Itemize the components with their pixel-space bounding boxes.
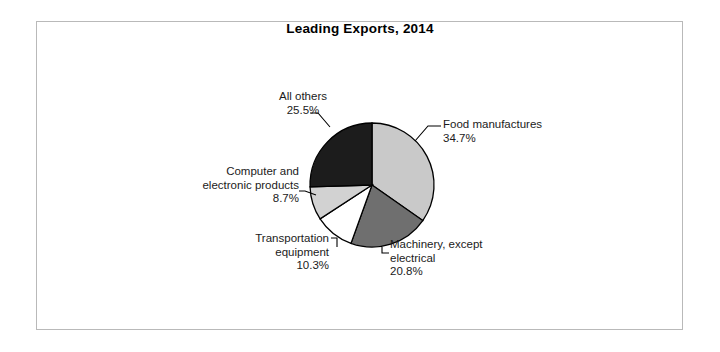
pie-label-transportation-equipment: Transportation equipment 10.3%: [243, 232, 329, 273]
pie-label-transportation-name-line2: equipment: [243, 246, 329, 260]
pie-label-machinery-name-line2: electrical: [390, 252, 482, 266]
pie-label-machinery-name-line1: Machinery, except: [390, 238, 482, 252]
pie-label-machinery-value: 20.8%: [390, 265, 482, 279]
pie-label-computer-value: 8.7%: [195, 192, 299, 206]
pie-label-food-manufactures-name: Food manufactures: [443, 118, 542, 132]
chart-figure: Leading Exports, 2014 Food manufactures …: [0, 0, 720, 352]
pie-label-computer-name-line1: Computer and: [195, 165, 299, 179]
pie-label-computer-name-line2: electronic products: [195, 179, 299, 193]
pie-slice-all-others[interactable]: [310, 123, 372, 187]
pie-chart-graphic: [0, 0, 720, 352]
pie-label-all-others-value: 25.5%: [266, 104, 340, 118]
leader-line-food-manufactures: [415, 126, 441, 141]
pie-label-machinery-except-electrical: Machinery, except electrical 20.8%: [390, 238, 482, 279]
pie-label-all-others: All others 25.5%: [266, 90, 340, 117]
leader-line-machinery-except-electrical: [382, 247, 389, 253]
pie-label-all-others-name: All others: [266, 90, 340, 104]
pie-label-food-manufactures-value: 34.7%: [443, 132, 542, 146]
pie-label-transportation-value: 10.3%: [243, 259, 329, 273]
pie-label-transportation-name-line1: Transportation: [243, 232, 329, 246]
pie-label-computer-and-electronic-products: Computer and electronic products 8.7%: [195, 165, 299, 206]
pie-label-food-manufactures: Food manufactures 34.7%: [443, 118, 542, 145]
leader-line-transportation-equipment: [331, 238, 337, 247]
